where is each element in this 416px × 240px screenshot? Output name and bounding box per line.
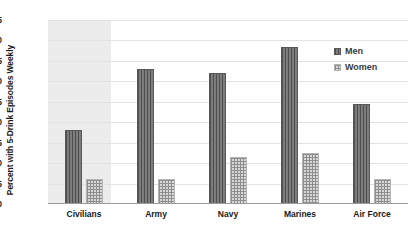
x-axis-line bbox=[48, 203, 408, 204]
gridline bbox=[48, 102, 408, 103]
legend-label: Women bbox=[345, 63, 377, 72]
y-axis-tick-label: 10 bbox=[0, 159, 2, 168]
y-axis-title: Percent with 5-Drink Episodes Weekly bbox=[2, 0, 18, 240]
bar-marines-women bbox=[302, 153, 319, 204]
y-axis-tick-label: 0 bbox=[0, 200, 2, 209]
bar-chart: Percent with 5-Drink Episodes Weekly 051… bbox=[0, 0, 416, 240]
x-axis-label-navy: Navy bbox=[188, 210, 268, 219]
x-axis-label-air-force: Air Force bbox=[332, 210, 412, 219]
bar-army-men bbox=[137, 69, 154, 204]
x-axis-label-civilians: Civilians bbox=[44, 210, 124, 219]
y-axis-tick-label: 15 bbox=[0, 139, 2, 148]
y-axis-tick-label: 25 bbox=[0, 98, 2, 107]
y-axis-tick-label: 30 bbox=[0, 77, 2, 86]
legend-swatch-women-icon bbox=[334, 64, 341, 71]
x-axis-label-army: Army bbox=[116, 210, 196, 219]
bar-navy-men bbox=[209, 73, 226, 204]
legend-swatch-men-icon bbox=[334, 48, 341, 55]
y-axis-tick-label: 20 bbox=[0, 118, 2, 127]
y-axis-tick-label: 45 bbox=[0, 16, 2, 25]
y-axis-tick-label: 5 bbox=[0, 180, 2, 189]
bar-navy-women bbox=[230, 157, 247, 204]
bar-marines-men bbox=[281, 47, 298, 204]
bar-air-force-men bbox=[353, 104, 370, 204]
legend: MenWomen bbox=[334, 44, 377, 76]
y-axis-tick-label: 35 bbox=[0, 57, 2, 66]
bar-air-force-women bbox=[374, 179, 391, 204]
legend-item-men[interactable]: Men bbox=[334, 44, 377, 58]
y-axis-tick-label: 40 bbox=[0, 36, 2, 45]
x-axis-label-marines: Marines bbox=[260, 210, 340, 219]
gridline bbox=[48, 40, 408, 41]
bar-civilians-men bbox=[65, 130, 82, 204]
gridline bbox=[48, 20, 408, 21]
bar-civilians-women bbox=[86, 179, 103, 204]
legend-label: Men bbox=[345, 47, 363, 56]
legend-item-women[interactable]: Women bbox=[334, 60, 377, 74]
gridline bbox=[48, 81, 408, 82]
bar-army-women bbox=[158, 179, 175, 204]
